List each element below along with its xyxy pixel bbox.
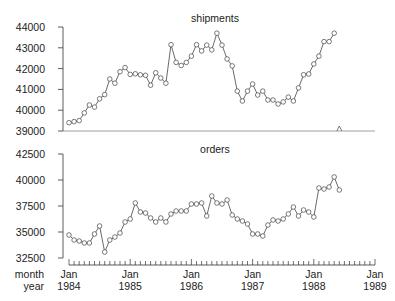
data-point: [276, 102, 281, 107]
data-point: [82, 241, 87, 246]
data-point: [72, 238, 77, 243]
data-point: [286, 95, 291, 100]
data-point: [317, 54, 322, 59]
shipments-panel: shipments390004000041000420004300044000: [16, 12, 375, 137]
data-point: [153, 220, 158, 225]
data-point: [276, 219, 281, 224]
data-point: [148, 216, 153, 221]
data-point: [194, 202, 199, 207]
data-point: [159, 76, 164, 81]
data-point: [148, 83, 153, 88]
data-point: [220, 43, 225, 48]
data-point: [306, 72, 311, 77]
x-tick-label-year: 1985: [119, 280, 143, 292]
data-point: [230, 64, 235, 69]
data-point: [332, 31, 337, 36]
data-point: [322, 187, 327, 192]
data-point: [179, 209, 184, 214]
data-point: [169, 212, 174, 217]
y-tick-label: 37500: [16, 200, 45, 212]
data-point: [327, 39, 332, 44]
data-point: [102, 250, 107, 255]
y-tick-label: 40000: [16, 174, 45, 186]
data-point: [245, 222, 250, 227]
y-tick-label: 40000: [16, 104, 45, 116]
y-tick-label: 44000: [16, 21, 45, 33]
data-point: [128, 217, 133, 222]
data-point: [123, 65, 128, 70]
data-point: [296, 214, 301, 219]
x-tick-label-year: 1986: [180, 280, 204, 292]
data-point: [337, 188, 342, 193]
y-tick-label: 39000: [16, 125, 45, 137]
data-point: [215, 31, 220, 36]
data-point: [108, 238, 113, 243]
data-point: [215, 201, 220, 206]
data-point: [271, 98, 276, 103]
data-point: [301, 73, 306, 78]
data-point: [281, 100, 286, 105]
data-point: [87, 103, 92, 108]
data-point: [230, 213, 235, 218]
data-point: [133, 201, 138, 206]
data-point: [296, 86, 301, 91]
data-point: [266, 223, 271, 228]
x-row-label-month: month: [15, 268, 44, 280]
data-point: [250, 82, 255, 87]
data-point: [164, 220, 169, 225]
data-point: [174, 60, 179, 65]
data-point: [67, 120, 72, 125]
data-point: [184, 209, 189, 214]
data-point: [97, 224, 102, 229]
data-point: [286, 212, 291, 217]
y-tick-label: 42500: [16, 148, 45, 160]
data-point: [118, 69, 123, 74]
data-point: [250, 232, 255, 237]
data-point: [312, 62, 317, 67]
x-tick-label-year: 1988: [302, 280, 326, 292]
y-tick-label: 41000: [16, 83, 45, 95]
data-point: [169, 42, 174, 47]
data-point: [184, 60, 189, 65]
data-point: [210, 194, 215, 199]
x-tick-label-month: Jan: [305, 268, 322, 280]
data-point: [87, 241, 92, 246]
x-axis: monthyearJan1984Jan1985Jan1986Jan1987Jan…: [15, 259, 387, 292]
x-tick-label-year: 1987: [241, 280, 265, 292]
data-point: [72, 119, 77, 124]
data-point: [128, 72, 133, 77]
data-point: [240, 99, 245, 104]
data-point: [322, 39, 327, 44]
x-tick-label-month: Jan: [61, 268, 78, 280]
x-tick-label-month: Jan: [122, 268, 139, 280]
x-tick-label-month: Jan: [183, 268, 200, 280]
y-tick-label: 32500: [16, 252, 45, 264]
x-tick-label-year: 1989: [363, 280, 387, 292]
data-point: [143, 211, 148, 216]
panel-title: orders: [200, 143, 230, 155]
data-point: [261, 234, 266, 239]
data-point: [220, 202, 225, 207]
x-tick-label-year: 1984: [57, 280, 81, 292]
missing-value-marker-icon: [337, 126, 342, 131]
data-point: [240, 219, 245, 224]
data-point: [291, 99, 296, 104]
x-row-label-year: year: [24, 280, 45, 292]
data-point: [82, 111, 87, 116]
data-point: [204, 43, 209, 48]
data-point: [77, 239, 82, 244]
data-point: [312, 215, 317, 220]
y-tick-label: 42000: [16, 63, 45, 75]
data-point: [261, 89, 266, 94]
data-point: [271, 218, 276, 223]
data-point: [67, 233, 72, 238]
data-point: [97, 97, 102, 102]
data-point: [138, 210, 143, 215]
y-tick-label: 35000: [16, 226, 45, 238]
time-series-chart: shipments390004000041000420004300044000 …: [0, 0, 395, 301]
data-point: [123, 220, 128, 225]
data-point: [113, 235, 118, 240]
x-tick-label-month: Jan: [244, 268, 261, 280]
data-point: [113, 81, 118, 86]
data-point: [225, 198, 230, 203]
